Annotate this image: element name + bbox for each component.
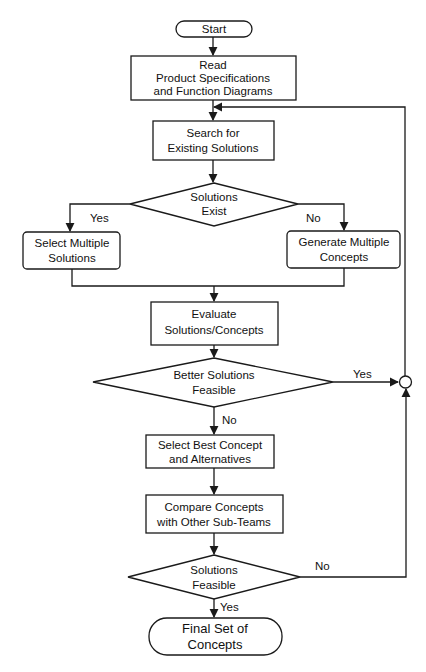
node-select-multiple-line-2: Solutions [48, 252, 96, 264]
node-select-multiple: Select Multiple Solutions [23, 232, 120, 269]
edge-label-exist-no: No [306, 212, 321, 224]
node-start: Start [176, 21, 252, 37]
node-read-line-2: Product Specifications [156, 72, 270, 84]
node-exist: Solutions Exist [130, 183, 298, 226]
node-better-line-2: Feasible [192, 384, 235, 396]
node-feasible-line-1: Solutions [190, 564, 238, 576]
node-read-line-3: and Function Diagrams [154, 85, 273, 97]
node-select-multiple-line-1: Select Multiple [35, 237, 110, 249]
node-better-line-1: Better Solutions [173, 369, 254, 381]
node-search: Search for Existing Solutions [153, 121, 274, 160]
edge-merge [72, 268, 344, 286]
node-read: Read Product Specifications and Function… [131, 56, 296, 100]
decision-shape [128, 555, 300, 599]
edge-label-feasible-yes: Yes [220, 601, 239, 613]
edge-feasible-junction [300, 389, 406, 577]
edge-exist-generate-multiple [298, 204, 344, 230]
node-junction [400, 376, 412, 388]
node-evaluate-line-2: Solutions/Concepts [164, 324, 263, 336]
node-final: Final Set of Concepts [149, 618, 282, 655]
node-better: Better Solutions Feasible [93, 358, 333, 407]
node-feasible-line-2: Feasible [192, 579, 235, 591]
node-final-line-1: Final Set of [182, 621, 248, 636]
node-feasible: Solutions Feasible [128, 555, 300, 599]
node-compare-line-1: Compare Concepts [164, 501, 263, 513]
node-evaluate: Evaluate Solutions/Concepts [151, 302, 278, 345]
node-generate-multiple-line-2: Concepts [320, 251, 369, 263]
node-search-line-1: Search for [186, 127, 239, 139]
node-generate-multiple: Generate Multiple Concepts [287, 231, 400, 268]
node-compare: Compare Concepts with Other Sub-Teams [146, 495, 283, 533]
node-select-best-line-1: Select Best Concept [158, 439, 263, 451]
node-final-line-2: Concepts [188, 637, 243, 652]
node-generate-multiple-line-1: Generate Multiple [299, 236, 390, 248]
node-read-line-1: Read [199, 59, 227, 71]
flowchart: Start Read Product Specifications and Fu… [0, 0, 426, 672]
node-compare-line-2: with Other Sub-Teams [156, 516, 271, 528]
node-search-line-2: Existing Solutions [168, 142, 259, 154]
node-exist-line-1: Solutions [190, 191, 238, 203]
node-evaluate-line-1: Evaluate [192, 308, 237, 320]
node-select-best: Select Best Concept and Alternatives [146, 435, 274, 468]
edge-label-better-no: No [222, 414, 237, 426]
decision-shape [93, 358, 333, 407]
edge-label-feasible-no: No [315, 560, 330, 572]
node-start-label: Start [202, 23, 227, 35]
edge-label-exist-yes: Yes [90, 212, 109, 224]
edge-label-better-yes: Yes [353, 368, 372, 380]
node-exist-line-2: Exist [202, 205, 228, 217]
node-select-best-line-2: and Alternatives [169, 453, 251, 465]
